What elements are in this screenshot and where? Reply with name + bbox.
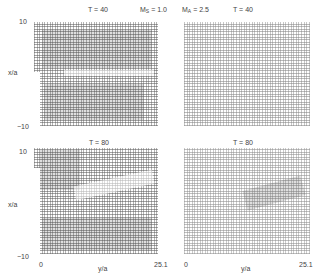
x-axis-label-2: y/a <box>241 265 250 273</box>
ma-parameter: MA = 2.5 <box>182 6 209 15</box>
x-tick-left-1: 0 <box>39 261 43 269</box>
x-tick-right-1: 25.1 <box>154 261 168 269</box>
vector-field-top-right <box>184 22 310 126</box>
vector-field-bottom-right <box>184 148 310 254</box>
y-tick-top-2: 10 <box>19 148 27 156</box>
x-axis-label-1: y/a <box>98 265 107 273</box>
panel-title-bottom-right: T = 80 <box>233 139 253 147</box>
panel-title-bottom-left: T = 80 <box>89 139 109 147</box>
y-tick-bottom-2: −10 <box>17 253 29 261</box>
ms-parameter: MS = 1.0 <box>140 6 167 15</box>
y-tick-bottom: −10 <box>17 123 29 131</box>
panel-title-top-right: T = 40 <box>233 6 253 14</box>
vector-field-top-left <box>34 22 158 126</box>
y-axis-label-bottom: x/a <box>8 201 17 209</box>
x-tick-right-2: 25.1 <box>299 261 313 269</box>
panel-title-top-left: T = 40 <box>88 6 108 14</box>
y-tick-top: 10 <box>19 18 27 26</box>
x-tick-left-2: 0 <box>184 261 188 269</box>
vector-field-bottom-left <box>34 148 158 254</box>
y-axis-label-top: x/a <box>8 69 17 77</box>
